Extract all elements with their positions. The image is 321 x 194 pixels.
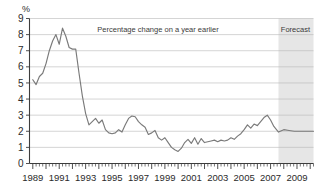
x-axis [30, 164, 314, 170]
forecast-band-rect [278, 19, 313, 164]
forecast-shaded-region [278, 19, 313, 164]
x-tick-label-2005: 2005 [234, 172, 255, 183]
y-tick-label-0: 0 [18, 158, 24, 169]
x-tick-label-1997: 1997 [128, 172, 149, 183]
chart-canvas: 0123456789 19891991199319951997199920012… [0, 0, 321, 194]
x-tick-label-1995: 1995 [101, 172, 122, 183]
y-tick-label-6: 6 [18, 61, 24, 72]
y-axis [26, 19, 30, 164]
y-tick-label-3: 3 [18, 110, 24, 121]
x-tick-label-2007: 2007 [260, 172, 281, 183]
y-axis-unit-label: % [22, 4, 30, 14]
x-tick-label-1993: 1993 [75, 172, 96, 183]
data-series-line [33, 28, 314, 151]
x-tick-label-2001: 2001 [181, 172, 202, 183]
y-tick-label-5: 5 [18, 78, 24, 89]
y-axis-tick-labels: 0123456789 [18, 13, 24, 169]
x-axis-tick-labels: 1989199119931995199719992001200320052007… [22, 172, 307, 183]
series-polyline [33, 28, 314, 151]
x-tick-label-1989: 1989 [22, 172, 43, 183]
y-tick-label-1: 1 [18, 142, 24, 153]
x-tick-label-1999: 1999 [154, 172, 175, 183]
inflation-chart: 0123456789 19891991199319951997199920012… [0, 0, 321, 194]
forecast-label: Forecast [281, 25, 311, 34]
y-tick-label-8: 8 [18, 29, 24, 40]
y-tick-label-2: 2 [18, 126, 24, 137]
y-tick-label-4: 4 [18, 94, 24, 105]
chart-annotation: Percentage change on a year earlier [97, 25, 219, 34]
y-tick-label-9: 9 [18, 13, 24, 24]
x-tick-label-2009: 2009 [286, 172, 307, 183]
x-tick-label-2003: 2003 [207, 172, 228, 183]
gridlines [30, 19, 314, 148]
x-tick-label-1991: 1991 [49, 172, 70, 183]
y-tick-label-7: 7 [18, 45, 24, 56]
